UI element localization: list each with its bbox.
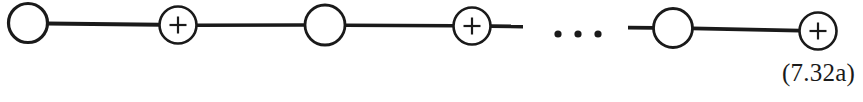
chain-edge <box>692 28 800 30</box>
plus-node <box>160 7 197 44</box>
ellipsis-group <box>554 30 601 37</box>
node-circle-icon <box>305 5 345 45</box>
chain-edge <box>345 25 454 26</box>
plus-node <box>454 8 491 45</box>
plain-node <box>305 5 345 45</box>
ellipsis-dot-icon <box>554 30 561 37</box>
ellipsis-dot-icon <box>574 30 581 37</box>
chain-edge <box>47 24 160 25</box>
plain-node <box>9 4 48 43</box>
figure-container: (7.32a) <box>0 0 863 102</box>
node-circle-icon <box>9 4 48 43</box>
chain-diagram <box>0 0 863 102</box>
ellipsis-dot-icon <box>594 30 601 37</box>
node-circle-icon <box>654 9 693 48</box>
equation-number-label: (7.32a) <box>782 60 855 85</box>
plus-node <box>800 13 837 50</box>
plain-node <box>654 9 693 48</box>
